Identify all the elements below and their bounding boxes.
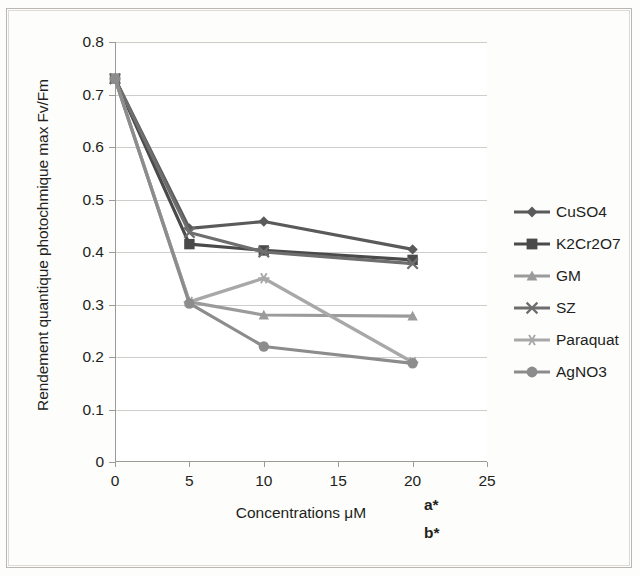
legend-marker-diamond-icon: [512, 202, 552, 222]
x-tick-label: 5: [185, 472, 194, 490]
data-point-asterisk: [526, 335, 538, 345]
x-tick: [264, 462, 265, 467]
y-tick-label: 0.8: [82, 33, 104, 51]
x-tick-label: 15: [330, 472, 347, 490]
annotation-a: a*: [424, 496, 439, 514]
plot-area: 00.10.20.30.40.50.60.70.8 0510152025: [115, 42, 487, 462]
x-tick: [338, 462, 339, 467]
y-tick-label: 0.5: [82, 191, 104, 209]
y-tick-label: 0.6: [82, 138, 104, 156]
y-tick-label: 0: [95, 453, 104, 471]
legend-label: K2Cr2O7: [556, 235, 621, 253]
x-tick: [115, 462, 116, 467]
data-point-circle: [407, 358, 417, 368]
x-tick: [413, 462, 414, 467]
chart-legend: CuSO4K2Cr2O7GMSZParaquatAgNO3: [512, 196, 632, 388]
x-tick: [487, 462, 488, 467]
legend-item-GM[interactable]: GM: [512, 260, 632, 292]
legend-item-AgNO3[interactable]: AgNO3: [512, 356, 632, 388]
legend-marker-circle-icon: [512, 362, 552, 382]
y-axis-title: Rendement quantique photochmique max Fv/…: [34, 30, 52, 460]
data-point-circle: [527, 367, 538, 378]
legend-label: CuSO4: [556, 203, 607, 221]
data-series-layer: [115, 42, 487, 462]
x-tick: [189, 462, 190, 467]
y-tick-label: 0.2: [82, 348, 104, 366]
data-point-circle: [184, 298, 194, 308]
x-tick-label: 20: [404, 472, 421, 490]
legend-item-Paraquat[interactable]: Paraquat: [512, 324, 632, 356]
data-point-diamond: [259, 216, 269, 226]
legend-label: GM: [556, 267, 581, 285]
y-tick-label: 0.3: [82, 296, 104, 314]
data-point-circle: [259, 341, 269, 351]
legend-label: AgNO3: [556, 363, 607, 381]
x-tick-label: 25: [478, 472, 495, 490]
x-tick-label: 10: [255, 472, 272, 490]
chart-page: Rendement quantique photochmique max Fv/…: [0, 0, 640, 576]
y-tick-label: 0.1: [82, 401, 104, 419]
legend-item-K2Cr2O7[interactable]: K2Cr2O7: [512, 228, 632, 260]
legend-marker-triangle-icon: [512, 266, 552, 286]
legend-item-SZ[interactable]: SZ: [512, 292, 632, 324]
legend-label: SZ: [556, 299, 576, 317]
legend-marker-square-icon: [512, 234, 552, 254]
x-tick-label: 0: [111, 472, 120, 490]
data-point-square: [184, 239, 194, 249]
data-point-circle: [110, 74, 120, 84]
legend-marker-x-icon: [512, 298, 552, 318]
data-point-diamond: [527, 207, 538, 218]
legend-label: Paraquat: [556, 331, 619, 349]
annotation-b: b*: [424, 524, 440, 542]
legend-marker-asterisk-icon: [512, 330, 552, 350]
y-tick-label: 0.7: [82, 86, 104, 104]
y-tick-label: 0.4: [82, 243, 104, 261]
series-K2Cr2O7: [110, 74, 418, 266]
data-point-square: [527, 239, 538, 250]
data-point-diamond: [407, 244, 417, 254]
legend-item-CuSO4[interactable]: CuSO4: [512, 196, 632, 228]
